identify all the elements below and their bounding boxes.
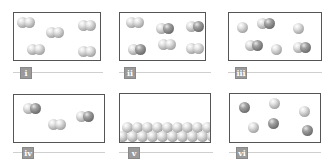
panel-iii-box: [228, 12, 322, 61]
lattice-atom: [207, 131, 211, 142]
panel-iv-box: [13, 94, 105, 143]
panel-i-label: i: [20, 67, 32, 79]
panel-iv-label: iv: [22, 147, 34, 159]
panel-iii-label: iii: [235, 67, 247, 79]
panel-ii-label: ii: [124, 67, 136, 79]
panel-vi-label: vi: [236, 147, 248, 159]
panel-vi-box: [229, 93, 321, 143]
panel-v-label: v: [128, 147, 140, 159]
panel-v-box: [119, 93, 211, 143]
panel-ii-box: [119, 12, 206, 61]
panel-i-box: [13, 12, 101, 61]
